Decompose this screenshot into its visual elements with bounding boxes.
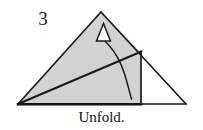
origami-step-figure: 3 Unfold.: [0, 0, 203, 130]
step-number-label: 3: [33, 7, 53, 31]
figure-caption: Unfold.: [0, 109, 203, 126]
